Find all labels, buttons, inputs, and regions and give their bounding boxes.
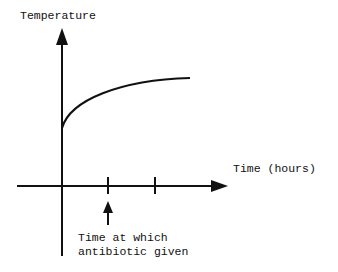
temperature-time-diagram: Temperature Time (hours) Time at which a… [0,0,338,272]
annotation-arrow-icon [103,201,113,213]
x-axis-label: Time (hours) [233,162,316,176]
diagram-graphics [0,0,338,272]
y-axis-arrowhead-icon [56,28,68,45]
temperature-curve [62,78,190,128]
y-axis-label: Temperature [20,9,96,23]
annotation-line-1: Time at which [78,231,168,245]
x-axis-arrowhead-icon [211,180,228,192]
annotation-line-2: antibiotic given [78,245,188,259]
